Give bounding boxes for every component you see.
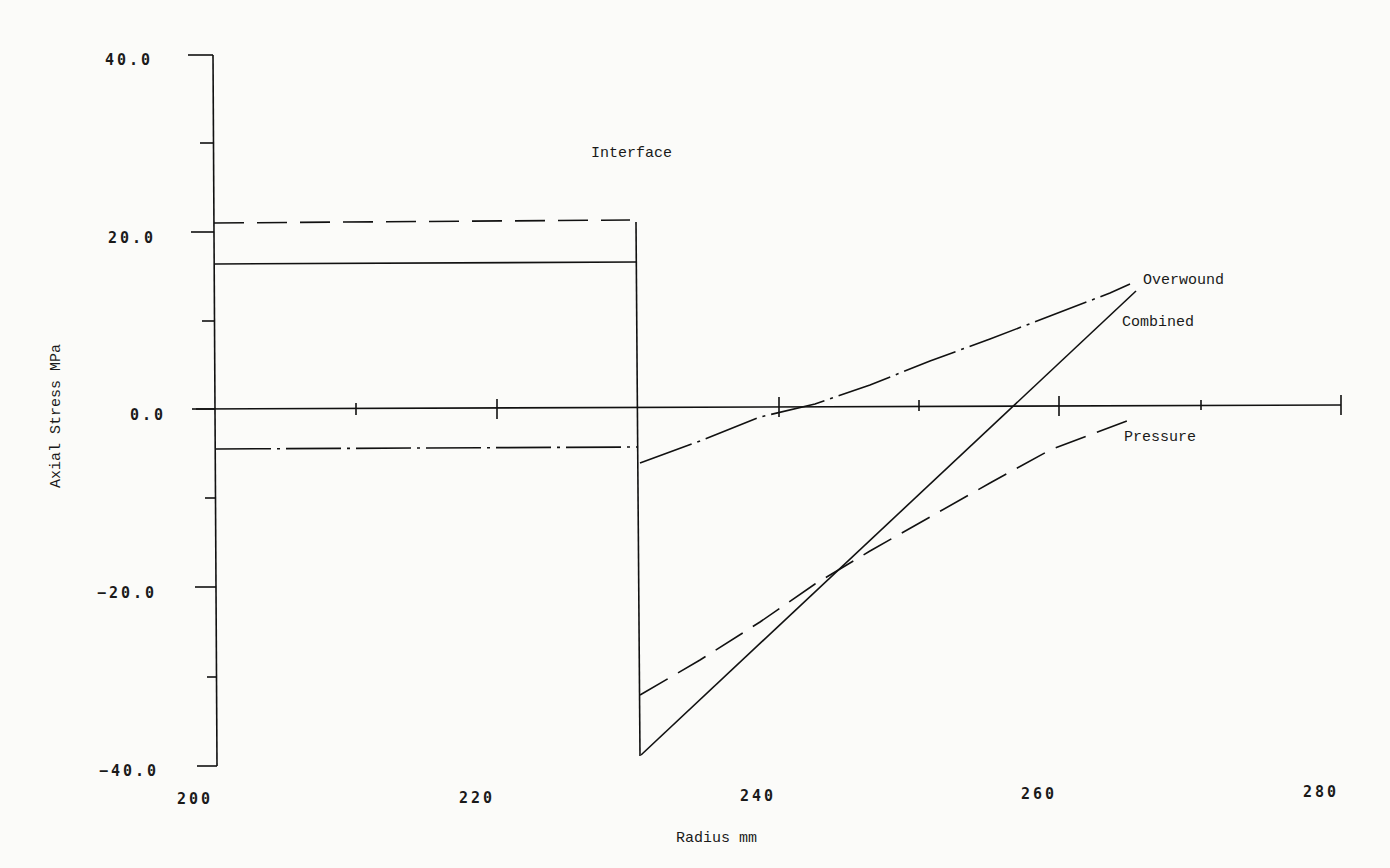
x-tick-label-240: 240 (740, 787, 776, 805)
overwound-outer-line (640, 284, 1130, 463)
x-tick-label-220: 220 (459, 789, 495, 807)
y-tick-label-0: 0.0 (130, 406, 166, 424)
y-axis-line (213, 55, 217, 766)
combined-label: Combined (1122, 314, 1194, 331)
pressure-outer-line (640, 421, 1127, 695)
y-tick-label-40: 40.0 (105, 51, 153, 69)
x-axis-line (196, 405, 1341, 409)
combined-outer-line (641, 291, 1136, 755)
y-tick-label-minus20: −20.0 (97, 584, 157, 602)
overwound-label: Overwound (1143, 272, 1224, 289)
y-axis-title: Axial Stress MPa (48, 344, 65, 488)
combined-inner-line (215, 262, 636, 264)
x-tick-label-280: 280 (1303, 783, 1339, 801)
x-axis: 200 220 240 260 280 Radius mm (177, 395, 1341, 847)
pressure-inner-line (214, 220, 630, 223)
x-tick-label-260: 260 (1021, 785, 1057, 803)
y-tick-label-20: 20.0 (108, 229, 156, 247)
series-overwound (216, 284, 1130, 463)
overwound-inner-line (216, 447, 637, 449)
series-pressure (214, 220, 1127, 695)
axial-stress-chart: 40.0 20.0 0.0 −20.0 −40.0 Axial Stress M… (0, 0, 1390, 868)
x-axis-title: Radius mm (676, 830, 757, 847)
y-axis: 40.0 20.0 0.0 −20.0 −40.0 Axial Stress M… (48, 51, 217, 780)
pressure-label: Pressure (1124, 429, 1196, 446)
interface-line (636, 222, 640, 756)
y-tick-label-minus40: −40.0 (99, 762, 159, 780)
interface-label: Interface (591, 145, 672, 162)
x-tick-label-200: 200 (177, 790, 213, 808)
